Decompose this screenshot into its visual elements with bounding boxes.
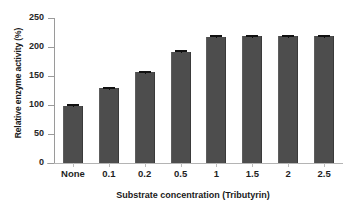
x-tick-label: 1.5 (232, 168, 272, 179)
x-tick-label: 0.5 (161, 168, 201, 179)
x-tick-mark (324, 163, 325, 167)
x-tick-mark (216, 163, 217, 167)
error-bar-cap (210, 35, 222, 37)
error-bar-cap (175, 50, 187, 52)
x-tick-label: 1 (196, 168, 236, 179)
error-bar-cap (246, 35, 258, 37)
y-tick-mark (48, 47, 54, 48)
x-axis-title: Substrate concentration (Tributyrin) (43, 190, 343, 200)
error-bar-cap (139, 71, 151, 73)
error-bar-cap (103, 87, 115, 89)
bar (99, 88, 119, 163)
x-tick-label: 0.2 (125, 168, 165, 179)
x-tick-mark (252, 163, 253, 167)
x-tick-mark (73, 163, 74, 167)
bar (314, 36, 334, 163)
y-tick-label: 100 (0, 99, 44, 109)
bar (206, 37, 226, 163)
bar (242, 36, 262, 163)
x-tick-label: 2 (268, 168, 308, 179)
bar-chart-figure: Relative enzyme activity (%) 05010015020… (0, 0, 347, 213)
bar (63, 106, 83, 163)
y-tick-label: 50 (0, 128, 44, 138)
y-tick-label: 200 (0, 41, 44, 51)
error-bar-cap (282, 35, 294, 37)
x-tick-label: 2.5 (304, 168, 344, 179)
bar (171, 52, 191, 163)
y-tick-mark (48, 163, 54, 164)
x-axis-line (47, 163, 343, 164)
x-tick-mark (288, 163, 289, 167)
y-tick-label: 250 (0, 12, 44, 22)
x-tick-mark (145, 163, 146, 167)
x-tick-label: 0.1 (89, 168, 129, 179)
y-tick-mark (48, 76, 54, 77)
error-bar-cap (318, 35, 330, 37)
x-tick-mark (181, 163, 182, 167)
y-tick-mark (48, 105, 54, 106)
error-bar-cap (67, 104, 79, 106)
x-tick-label: None (53, 168, 93, 179)
y-tick-label: 150 (0, 70, 44, 80)
y-tick-mark (48, 18, 54, 19)
y-tick-mark (48, 134, 54, 135)
bar (278, 36, 298, 163)
plot-area (55, 18, 342, 163)
x-tick-mark (109, 163, 110, 167)
y-tick-label: 0 (0, 157, 44, 167)
bar (135, 72, 155, 163)
